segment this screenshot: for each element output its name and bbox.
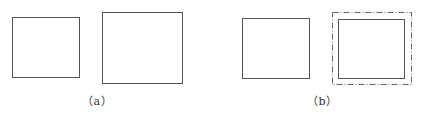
dash-dot-outline bbox=[333, 13, 412, 85]
small-square bbox=[13, 18, 80, 78]
large-square bbox=[103, 13, 183, 84]
panel-b bbox=[243, 13, 412, 85]
panel-a bbox=[13, 13, 183, 84]
inner-square bbox=[339, 20, 405, 79]
caption-b: （b） bbox=[307, 92, 338, 108]
caption-a: （a） bbox=[82, 92, 112, 108]
plain-square bbox=[243, 19, 310, 79]
diagram-canvas bbox=[0, 0, 421, 113]
